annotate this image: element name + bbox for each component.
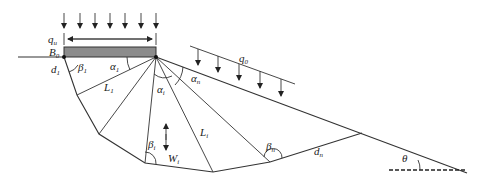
label-q0: q0 <box>239 52 249 66</box>
label-alpha-n: αn <box>191 72 201 86</box>
label-beta-n: βn <box>265 140 275 154</box>
label-beta-i: βi <box>147 138 155 152</box>
width-dimension <box>64 33 156 45</box>
failure-mechanism-diagram: qu B0 d1 β1 α1 L1 αi αn q0 Li βi Wi βn d… <box>0 0 477 182</box>
label-L1: L1 <box>103 81 114 95</box>
foundation-left-corner <box>62 55 66 59</box>
label-alpha-i: αi <box>157 83 165 97</box>
label-dn: dn <box>314 145 324 159</box>
label-theta: θ <box>402 152 408 164</box>
apex-point <box>154 55 158 59</box>
foundation-load-arrows <box>64 13 156 28</box>
label-d1: d1 <box>51 63 60 77</box>
label-alpha1: α1 <box>110 60 119 74</box>
label-q-u: qu <box>48 33 58 47</box>
label-Wi: Wi <box>168 152 179 166</box>
label-B0: B0 <box>49 46 60 60</box>
label-Li: Li <box>199 126 208 140</box>
slope-surface <box>156 57 467 173</box>
label-beta1: β1 <box>77 61 87 75</box>
foundation <box>64 47 156 57</box>
